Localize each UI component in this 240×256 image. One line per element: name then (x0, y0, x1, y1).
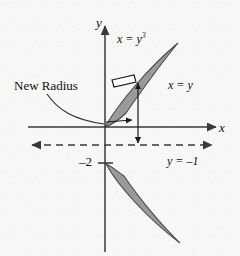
representative-rectangle (112, 75, 136, 87)
x-axis-label: x (219, 121, 225, 134)
new-radius-annotation: New Radius (14, 79, 78, 92)
curve-cubic-exponent: 3 (142, 31, 146, 40)
y-axis-label: y (96, 16, 102, 29)
figure-container: y x x = y3 x = y New Radius –2 y = –1 (0, 0, 240, 256)
lower-shaded-region (106, 164, 180, 243)
new-radius-leader-line (47, 94, 104, 124)
curve-cubic-label-text: x = y (117, 32, 142, 46)
curve-linear-label: x = y (168, 79, 193, 91)
axis-of-revolution-label: y = –1 (167, 155, 198, 167)
y-tick-minus2-label: –2 (79, 155, 92, 168)
curve-cubic-label: x = y3 (117, 32, 146, 45)
